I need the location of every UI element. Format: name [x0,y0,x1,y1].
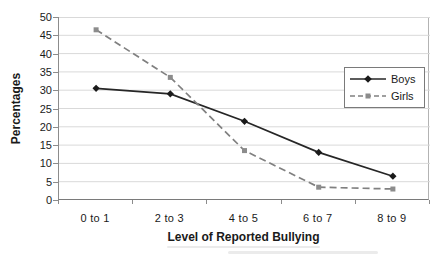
y-tick-label: 0 [24,194,52,206]
legend-item-girls: Girls [349,89,420,103]
legend: Boys Girls [344,67,425,108]
y-tick-label: 5 [24,176,52,188]
data-point-marker [242,148,247,153]
legend-line-sample-boys [349,74,387,84]
x-tick-mark [58,200,59,204]
x-category-label: 6 to 7 [286,212,350,224]
y-tick-mark [53,72,58,73]
y-tick-mark [53,163,58,164]
x-tick-mark [206,200,207,204]
y-tick-label: 30 [24,84,52,96]
data-point-marker [168,75,173,80]
data-point-marker [389,173,396,180]
y-axis-title: Percentages [9,34,24,184]
scan-artifact [167,246,320,248]
y-tick-mark [53,182,58,183]
legend-label-girls: Girls [391,90,414,102]
y-tick-label: 10 [24,157,52,169]
y-tick-mark [53,17,58,18]
x-tick-mark [429,200,430,204]
y-tick-mark [53,109,58,110]
data-point-marker [390,187,395,192]
y-tick-label: 35 [24,66,52,78]
x-category-label: 4 to 5 [212,212,276,224]
x-tick-mark [132,200,133,204]
scan-artifact [228,251,378,254]
chart-canvas [59,17,430,200]
x-category-label: 0 to 1 [63,212,127,224]
data-point-marker [315,149,322,156]
y-tick-mark [53,35,58,36]
y-tick-label: 45 [24,29,52,41]
x-category-label: 8 to 9 [360,212,424,224]
x-tick-mark [355,200,356,204]
y-tick-mark [53,90,58,91]
x-tick-mark [281,200,282,204]
y-tick-label: 15 [24,139,52,151]
y-tick-label: 50 [24,11,52,23]
y-tick-label: 20 [24,121,52,133]
y-tick-mark [53,127,58,128]
y-tick-mark [53,54,58,55]
legend-line-sample-girls [349,91,387,101]
data-point-marker [241,118,248,125]
data-point-marker [93,85,100,92]
legend-item-boys: Boys [349,72,420,86]
y-tick-mark [53,145,58,146]
x-category-label: 2 to 3 [137,212,201,224]
legend-label-boys: Boys [391,73,415,85]
y-tick-label: 25 [24,103,52,115]
data-point-marker [94,27,99,32]
x-axis-title: Level of Reported Bullying [58,230,429,244]
plot-area [58,17,429,200]
bullying-line-chart-figure: Percentages 504540353025201510500 to 12 … [0,0,445,257]
y-tick-label: 40 [24,48,52,60]
data-point-marker [167,90,174,97]
data-point-marker [316,185,321,190]
